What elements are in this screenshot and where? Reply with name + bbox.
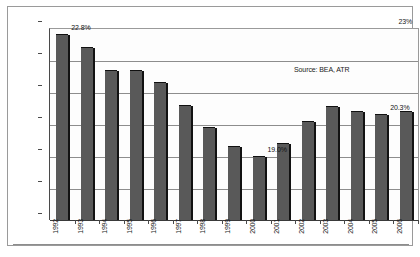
bar-group [400,28,414,220]
x-tick-label: 2004 [347,219,355,234]
x-tick-label: 2001 [273,219,281,234]
x-tick-mark [393,220,394,224]
bar[interactable] [81,47,93,220]
x-tick-mark [148,220,149,224]
bar[interactable] [400,111,412,220]
x-tick-mark [369,220,370,224]
y-tick-mark-22 [38,53,42,54]
bar-group [326,28,340,220]
x-tick-mark [173,220,174,224]
bar[interactable] [228,146,240,220]
bar-value-label: 22.8% [71,24,90,32]
x-tick-label: 2005 [371,219,379,234]
bar[interactable] [203,127,215,220]
x-tick-label: 1992 [52,219,60,234]
x-tick-mark [418,220,419,224]
bar-group [253,28,267,220]
bar-value-label: 20.3% [390,104,409,112]
bar-group [105,28,119,220]
bar[interactable] [253,156,265,220]
bar[interactable] [277,143,289,220]
x-tick-label: 1993 [77,219,85,234]
bar-group [179,28,193,220]
bar-group [81,28,95,220]
x-tick-mark [295,220,296,224]
y-tick-mark-21 [38,85,42,86]
x-tick-mark [246,220,247,224]
y-tick-mark-20 [38,117,42,118]
x-tick-mark [271,220,272,224]
bar-group [302,28,316,220]
x-tick-label: 1994 [101,219,109,234]
x-tick-label: 2006 [396,219,404,234]
plot-area: Source: BEA, ATR 22.8%19.0%20.3% [49,28,419,220]
y-tick-label-23: 23% [382,18,412,25]
x-tick-label: 1998 [199,219,207,234]
x-tick-mark [320,220,321,224]
bar[interactable] [302,121,314,220]
bar[interactable] [179,105,191,220]
x-tick-mark [124,220,125,224]
x-tick-mark [222,220,223,224]
x-tick-label: 1999 [224,219,232,234]
bar-group [351,28,365,220]
bar-group [277,28,291,220]
x-tick-label: 2003 [322,219,330,234]
bar[interactable] [375,114,387,220]
bar-group [56,28,70,220]
bar-group [203,28,217,220]
bar[interactable] [56,34,68,220]
y-tick-mark-19 [38,149,42,150]
x-tick-mark [75,220,76,224]
figure-frame: 23% 22% 21% 20% 19% 18% 17% Source: BEA, [7,6,413,246]
x-tick-label: 1997 [175,219,183,234]
bar[interactable] [154,82,166,220]
chart-screenshot: 23% 22% 21% 20% 19% 18% 17% Source: BEA, [0,0,420,257]
x-axis-rule [13,244,409,245]
x-tick-mark [99,220,100,224]
x-tick-mark [344,220,345,224]
x-tick-label: 1996 [150,219,158,234]
bar[interactable] [105,70,117,220]
source-note: Source: BEA, ATR [294,66,349,73]
y-tick-mark-17 [38,213,42,214]
bar-group [375,28,389,220]
x-tick-label: 1995 [126,219,134,234]
bar[interactable] [326,106,338,220]
y-tick-mark-18 [38,181,42,182]
bar-group [130,28,144,220]
bar-value-label: 19.0% [268,146,287,154]
bar-group [228,28,242,220]
x-tick-label: 2002 [298,219,306,234]
bar[interactable] [351,111,363,220]
bars-layer [50,29,418,220]
bar-group [154,28,168,220]
bar[interactable] [130,70,142,220]
x-tick-label: 2000 [249,219,257,234]
y-tick-mark-23 [38,21,42,22]
